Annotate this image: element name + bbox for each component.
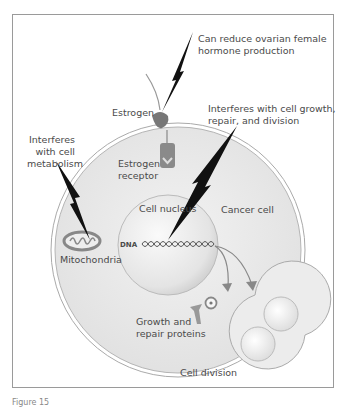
label-metabolism: Interferes with cell metabolism [27,134,75,170]
label-mitochondria: Mitochondria [60,254,122,266]
label-line: repair, and division [208,115,336,127]
estrogen-arrow [146,74,160,110]
lightning-bolt-icon-ovarian [162,32,193,112]
estrogen-molecule-icon [152,112,168,128]
figure-caption: Figure 15 [12,398,49,407]
label-line: Growth and [136,316,186,328]
label-receptor: Estrogen receptor [118,158,160,182]
label-line: with cell [27,146,75,158]
label-line: Interferes with cell growth, [208,103,336,115]
mitochondria-icon [64,232,100,250]
label-estrogen: Estrogen [112,107,154,119]
label-line: Can reduce ovarian female [198,33,327,45]
label-ovarian: Can reduce ovarian female hormone produc… [198,33,327,57]
label-line: hormone production [198,45,327,57]
label-cell-division: Cell division [180,367,237,379]
label-line: repair proteins [136,328,186,340]
label-line: metabolism [27,158,75,170]
label-line: Interferes [27,134,75,146]
label-cancer-cell: Cancer cell [221,204,274,216]
estrogen-receptor-icon [160,143,175,168]
label-line: receptor [118,170,160,182]
label-nucleus: Cell nucleus [139,203,197,215]
label-growth-interfere: Interferes with cell growth, repair, and… [208,103,336,127]
label-proteins: Growth and repair proteins [136,316,186,340]
label-dna: DNA [120,239,137,251]
label-line: Estrogen [118,158,160,170]
